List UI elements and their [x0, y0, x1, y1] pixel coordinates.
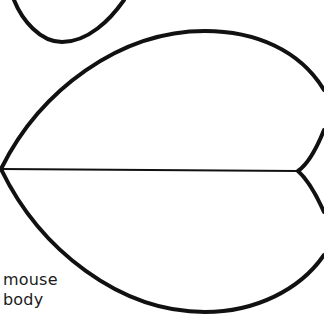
body-center-line — [1, 169, 298, 171]
small-shape-outline — [14, 0, 124, 42]
mouse-body-label: mouse body — [3, 270, 58, 310]
mouse-body-notch — [298, 130, 324, 212]
label-line-1: mouse — [3, 270, 58, 290]
label-line-2: body — [3, 290, 58, 310]
